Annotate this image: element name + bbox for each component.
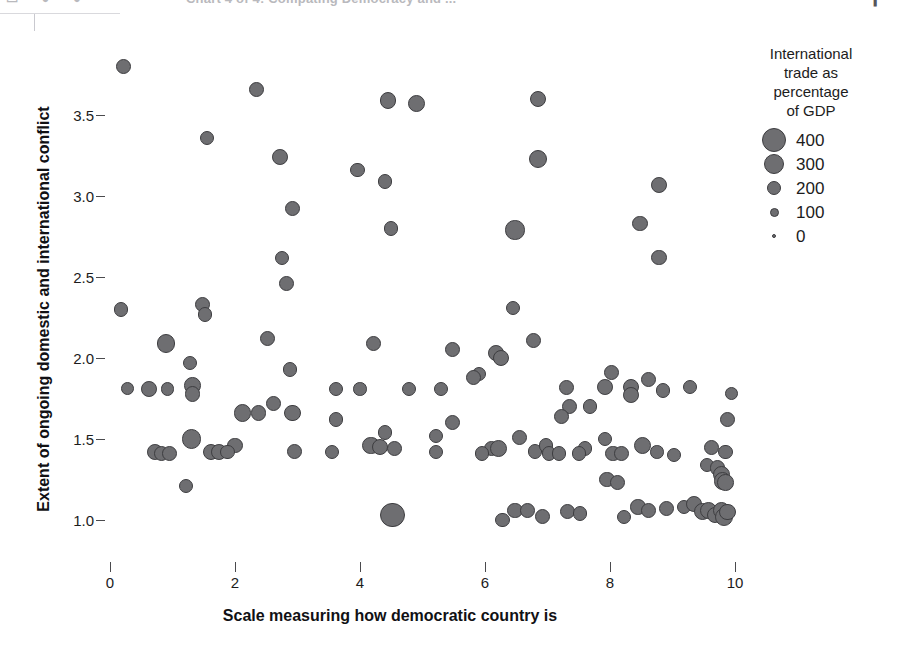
data-point[interactable] [141,381,157,397]
data-point[interactable] [493,350,509,366]
data-point[interactable] [634,437,651,454]
legend-item[interactable]: 0 [752,224,892,248]
data-point[interactable] [530,91,546,107]
data-point[interactable] [434,382,448,396]
y-axis-tick-label: 2.0 [54,350,94,367]
data-point[interactable] [554,409,569,424]
data-point[interactable] [720,412,735,427]
data-point[interactable] [251,405,266,420]
data-point[interactable] [717,474,734,491]
data-point[interactable] [651,250,667,266]
data-point[interactable] [505,220,524,239]
data-point[interactable] [266,396,281,411]
data-point[interactable] [121,382,134,395]
data-point[interactable] [116,59,131,74]
data-point[interactable] [719,504,735,520]
data-point[interactable] [526,333,541,348]
data-point[interactable] [466,370,481,385]
data-point[interactable] [275,251,289,265]
data-point[interactable] [617,510,631,524]
data-point[interactable] [475,446,489,460]
data-point[interactable] [667,448,681,462]
data-point[interactable] [380,503,404,527]
data-point[interactable] [283,362,298,377]
data-point[interactable] [552,446,566,460]
data-point[interactable] [378,174,393,189]
data-point[interactable] [641,372,656,387]
data-point[interactable] [183,356,197,370]
data-point[interactable] [604,365,619,380]
data-point[interactable] [573,506,587,520]
data-point[interactable] [659,501,674,516]
data-point[interactable] [610,475,625,490]
data-point[interactable] [387,441,402,456]
legend-item[interactable]: 200 [752,176,892,200]
data-point[interactable] [445,342,460,357]
data-point[interactable] [559,380,574,395]
data-point[interactable] [683,380,697,394]
legend-item-label: 200 [796,180,824,197]
data-point[interactable] [114,302,128,316]
data-point[interactable] [704,440,719,455]
data-point[interactable] [408,95,425,112]
data-point[interactable] [520,503,535,518]
data-point[interactable] [185,386,201,402]
data-point[interactable] [380,92,396,108]
data-point[interactable] [329,382,343,396]
data-point[interactable] [632,216,647,231]
data-point[interactable] [512,430,527,445]
data-point[interactable] [182,429,201,448]
data-point[interactable] [429,429,443,443]
data-point[interactable] [284,405,300,421]
data-point[interactable] [583,399,597,413]
data-point[interactable] [402,382,416,396]
data-point[interactable] [220,445,234,459]
data-point[interactable] [285,201,300,216]
legend-item[interactable]: 100 [752,200,892,224]
data-point[interactable] [572,446,586,460]
data-point[interactable] [718,445,732,459]
y-axis-tick [96,358,105,359]
data-point[interactable] [378,425,393,440]
y-axis-tick-label: 3.5 [54,107,94,124]
legend-item[interactable]: 300 [752,152,892,176]
data-point[interactable] [495,513,510,528]
data-point[interactable] [161,382,174,395]
data-point[interactable] [641,503,656,518]
data-point[interactable] [200,131,214,145]
data-point[interactable] [725,387,738,400]
data-point[interactable] [650,445,663,458]
data-point[interactable] [198,307,212,321]
data-point[interactable] [535,509,550,524]
x-axis-title: Scale measuring how democratic country i… [0,607,780,625]
data-point[interactable] [329,412,343,426]
data-point[interactable] [366,336,381,351]
data-point[interactable] [529,150,547,168]
data-point[interactable] [260,331,275,346]
data-point[interactable] [234,404,252,422]
data-point[interactable] [372,439,388,455]
data-point[interactable] [179,479,193,493]
data-point[interactable] [597,379,613,395]
data-point[interactable] [598,432,612,446]
data-point[interactable] [279,276,294,291]
data-point[interactable] [325,445,339,459]
legend-item[interactable]: 400 [752,128,892,152]
data-point[interactable] [162,446,177,461]
data-point[interactable] [353,382,366,395]
data-point[interactable] [350,163,364,177]
data-point[interactable] [272,149,288,165]
data-point[interactable] [249,82,264,97]
data-point[interactable] [157,334,175,352]
data-point[interactable] [614,446,629,461]
data-point[interactable] [506,301,520,315]
data-point[interactable] [445,415,460,430]
data-point[interactable] [656,383,670,397]
data-point[interactable] [623,387,639,403]
data-point[interactable] [490,440,507,457]
data-point[interactable] [384,221,398,235]
legend-title-line: of GDP [752,101,870,120]
data-point[interactable] [651,177,667,193]
data-point[interactable] [429,445,443,459]
data-point[interactable] [287,444,302,459]
